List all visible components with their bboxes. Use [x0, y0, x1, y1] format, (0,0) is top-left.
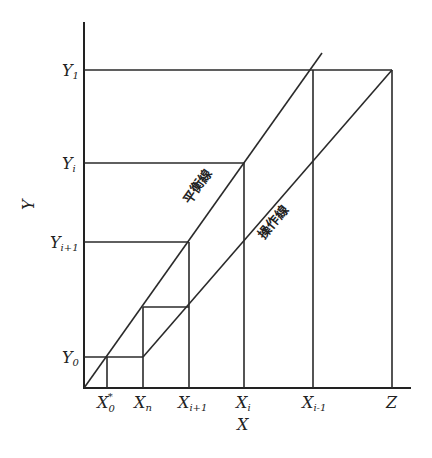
yi-label: Yi: [62, 154, 76, 174]
xi-label: Xi: [234, 393, 251, 413]
yi1-label: Yi+1: [50, 233, 79, 253]
z-label: Z: [385, 393, 398, 412]
operating-line: [143, 70, 392, 357]
y-axis-title: Y: [19, 198, 38, 210]
x-axis-title: X: [235, 415, 249, 434]
xi-minus1-label: Xi-1: [300, 393, 326, 413]
y0-label: Y0: [62, 348, 80, 368]
xi1-label: Xi+1: [176, 393, 207, 413]
equilibrium-line: [84, 53, 322, 388]
x0-star-label: X0*: [95, 391, 115, 414]
staircase-diagram: 平衡線 操作線 Y1 Yi Yi+1 Y0 X0* Xn Xi+1 Xi Xi-…: [0, 0, 432, 458]
xn-label: Xn: [132, 393, 152, 413]
equilibrium-line-label: 平衡線: [180, 165, 215, 206]
y1-label: Y1: [62, 61, 79, 81]
